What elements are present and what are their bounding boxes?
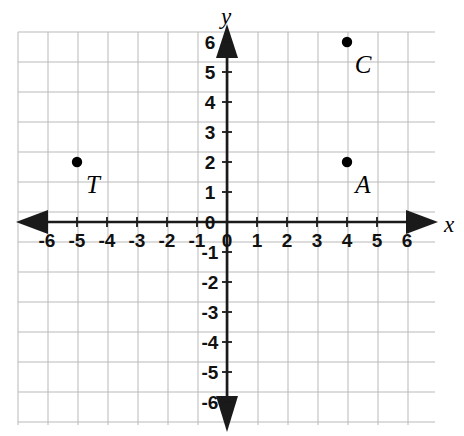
- y-axis-tick-label: 2: [205, 153, 216, 172]
- x-axis-tick-label: -2: [159, 231, 176, 250]
- x-axis-tick-label: -5: [69, 231, 86, 250]
- x-axis-tick-label: -4: [99, 231, 116, 250]
- x-axis-tick-label: 3: [312, 231, 323, 250]
- y-axis-tick-label: 4: [205, 93, 216, 112]
- x-axis-name: x: [444, 213, 454, 236]
- y-axis-tick-label: 3: [205, 123, 216, 142]
- x-axis-tick-label: -3: [129, 231, 146, 250]
- coordinate-plane-svg: [0, 0, 464, 436]
- y-axis-arrow-up: [216, 24, 238, 58]
- y-axis-tick-label: -1: [202, 243, 219, 262]
- point-label-c: C: [355, 52, 372, 77]
- data-point-c: [342, 37, 352, 47]
- point-label-t: T: [86, 172, 100, 197]
- x-axis-tick-label: 5: [372, 231, 383, 250]
- x-axis-tick-label: -6: [39, 231, 56, 250]
- x-axis-tick-label: 2: [282, 231, 293, 250]
- data-point-a: [342, 157, 352, 167]
- data-point-t: [72, 157, 82, 167]
- y-axis-name: y: [221, 5, 231, 28]
- y-axis-tick-label: 5: [205, 63, 216, 82]
- x-axis-tick-label: 6: [402, 231, 413, 250]
- y-axis-tick-label: 6: [205, 33, 216, 52]
- y-axis-tick-label: -2: [202, 273, 219, 292]
- y-axis-tick-label: -3: [202, 303, 219, 322]
- y-axis-tick-label: -4: [202, 333, 219, 352]
- x-axis-tick-label: 0: [222, 231, 233, 250]
- y-axis-tick-label: -5: [202, 363, 219, 382]
- y-axis-tick-label: 0: [205, 213, 216, 232]
- y-axis-tick-label: 1: [205, 183, 216, 202]
- point-label-a: A: [355, 172, 370, 197]
- y-axis-tick-label: -6: [202, 393, 219, 412]
- coordinate-plane-figure: TAC-6-5-4-3-2-101234566543210-1-2-3-4-5-…: [0, 0, 464, 436]
- x-axis-tick-label: 4: [342, 231, 353, 250]
- x-axis-tick-label: 1: [252, 231, 263, 250]
- axis-lines: [16, 24, 438, 432]
